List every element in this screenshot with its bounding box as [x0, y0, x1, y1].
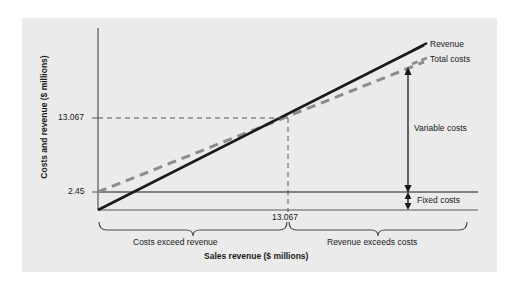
revenue-line	[98, 45, 424, 210]
annotation-label-variable-costs: Variable costs	[414, 124, 467, 133]
annotation-label-fixed-costs: Fixed costs	[417, 196, 460, 205]
brace-revenue-exceeds-costs	[289, 222, 467, 236]
x-axis-title: Sales revenue ($ millions)	[204, 252, 308, 261]
variable-costs-arrow	[404, 67, 411, 193]
legend-label-total-costs: Total costs	[430, 55, 470, 64]
legend-label-revenue: Revenue	[430, 40, 464, 49]
fixed-costs-arrow	[405, 192, 412, 210]
y-axis-title: Costs and revenue ($ millions)	[39, 37, 49, 197]
y-tick-label-breakeven: 13.067	[58, 113, 84, 122]
legend-swatch-revenue	[412, 43, 427, 51]
chart-figure: Costs and revenue ($ millions) 13.067 2.…	[0, 0, 526, 287]
brace-label-revenue-exceeds-costs: Revenue exceeds costs	[327, 238, 417, 247]
x-tick-label-breakeven: 13.067	[272, 213, 298, 222]
brace-label-costs-exceed-revenue: Costs exceed revenue	[133, 238, 218, 247]
brace-costs-exceed-revenue	[99, 222, 287, 236]
y-tick-label-fixed-costs: 2.45	[68, 187, 85, 196]
